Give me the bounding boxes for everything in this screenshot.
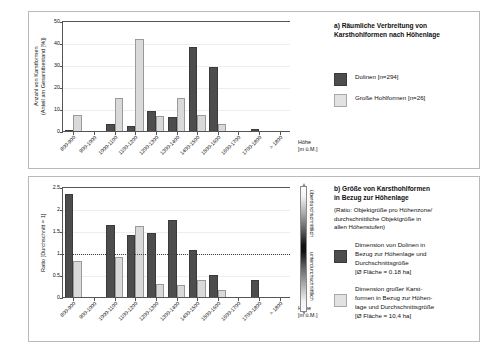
panel-b-title: b) Größe von Karsthohlformen in Bezug zu… <box>334 184 479 203</box>
panel-b-subtitle-line1: (Ratio: Objektgröße pro Höhenzone/ <box>334 206 482 215</box>
legend-label-dolinen-dimension: Dimension von Dolinen in Bezug zur Höhen… <box>355 241 427 277</box>
bar-group <box>187 188 208 298</box>
y-tick-mark <box>60 276 63 277</box>
bar <box>177 98 185 132</box>
legend-swatch-dolinen-dimension-icon <box>334 250 347 263</box>
bar <box>209 275 217 298</box>
legend-label-line2: Bezug zur Höhenlage und <box>355 250 427 257</box>
bar-group <box>125 188 146 298</box>
chart-a-x-axis-title-line1: Höhe <box>298 139 311 145</box>
bar-group <box>207 188 228 298</box>
y-tick-mark <box>60 188 63 189</box>
bar-group <box>104 22 125 132</box>
arrow-down-icon <box>302 311 306 315</box>
legend-label-line2: formen in Bezug zur Höhen- <box>355 294 432 301</box>
bar-group <box>207 22 228 132</box>
panel-b-title-line2: in Bezug zur Höhenlage <box>334 193 479 202</box>
bar <box>189 47 197 132</box>
bar <box>168 117 176 132</box>
panel-b-legend: Dimension von Dolinen in Bezug zur Höhen… <box>334 241 479 329</box>
legend-label-line3: lage und Durchschnittsgröße <box>355 303 434 310</box>
legend-label-line4: [Ø Fläche = 10,4 ha] <box>355 312 411 319</box>
panel-a-title-line1: a) Räumliche Verbreitung von <box>334 21 474 30</box>
chart-b-plot-area: 00.511.522.5 800-900900-10001000-1100110… <box>62 187 290 298</box>
panel-b-subtitle-line3: allen Höhenstufen) <box>334 223 482 232</box>
legend-label-line4: [Ø Fläche = 0.18 ha] <box>355 268 411 275</box>
gradient-label-below-average: unterdurchschnittlich <box>309 252 314 301</box>
panel-b-subtitle: (Ratio: Objektgröße pro Höhenzone/ durch… <box>334 206 482 232</box>
legend-item: Dimension von Dolinen in Bezug zur Höhen… <box>334 241 479 277</box>
bar <box>115 98 123 132</box>
bar <box>127 235 135 298</box>
legend-label-karstformen-dimension: Dimension großer Karst- formen in Bezug … <box>355 285 434 321</box>
bar-group <box>228 22 249 132</box>
chart-b-reference-line <box>63 254 290 255</box>
bar <box>251 280 259 298</box>
bar-group <box>166 22 187 132</box>
bar <box>189 250 197 298</box>
chart-a-bar-groups <box>63 22 290 132</box>
bar-group <box>228 188 249 298</box>
chart-a-y-axis-label-line1: Anzahl von Karstformen <box>33 46 39 106</box>
bar-group <box>269 188 290 298</box>
chart-a-x-axis-title: Höhe [m ü.M.] <box>298 139 317 154</box>
bar-group <box>125 22 146 132</box>
legend-swatch-dolinen-icon <box>334 73 347 86</box>
bar <box>73 261 81 298</box>
bar-group <box>187 22 208 132</box>
bar <box>209 67 217 132</box>
y-tick-mark <box>60 88 63 89</box>
bar-group <box>249 188 270 298</box>
bar <box>156 116 164 132</box>
bar <box>147 111 155 132</box>
y-tick-mark <box>60 110 63 111</box>
y-tick-mark <box>60 22 63 23</box>
bar <box>135 226 143 298</box>
chart-b-axes: 00.511.522.5 800-900900-10001000-1100110… <box>62 187 290 298</box>
bar-group <box>104 188 125 298</box>
y-tick-mark <box>60 44 63 45</box>
y-tick-mark <box>60 254 63 255</box>
legend-label-dolinen: Dolinen [n=294] <box>355 73 399 82</box>
chart-a-y-axis-label: Anzahl von Karstformen (Anteil am Gesamt… <box>33 24 47 128</box>
y-tick-mark <box>60 232 63 233</box>
bar-group <box>63 188 84 298</box>
legend-item: Große Hohlformen [n=26] <box>334 94 474 107</box>
panel-b-subtitle-line2: durchschnittliche Objektgröße in <box>334 215 482 224</box>
bar <box>106 225 114 298</box>
bar <box>197 280 205 298</box>
chart-a-axes: 01020304050 800-900900-10001000-11001100… <box>62 21 290 132</box>
gradient-label-above-average: überdurchschnittlich <box>309 190 314 237</box>
bar <box>197 115 205 132</box>
bar <box>115 257 123 298</box>
bar-group <box>166 188 187 298</box>
y-tick-mark <box>60 210 63 211</box>
legend-swatch-grosse-hohlformen-icon <box>334 94 347 107</box>
bar-group <box>146 188 167 298</box>
chart-a-x-axis-title-line2: [m ü.M.] <box>298 146 317 152</box>
legend-label-line3: Durchschnittsgröße <box>355 259 409 266</box>
chart-b-bar-groups <box>63 188 290 298</box>
legend-item: Dimension großer Karst- formen in Bezug … <box>334 285 479 321</box>
legend-label-grosse-hohlformen: Große Hohlformen [n=26] <box>355 94 425 103</box>
bar <box>65 194 73 298</box>
chart-a-y-axis-label-line2: (Anteil am Gesamtbestand [%]) <box>40 37 46 115</box>
bar <box>168 220 176 298</box>
bar-group <box>269 22 290 132</box>
y-tick-mark <box>60 132 63 133</box>
bar-group <box>146 22 167 132</box>
chart-b-y-axis-label: Ratio [Durchschnitt = 1] <box>40 193 47 293</box>
legend-swatch-karstformen-dimension-icon <box>334 294 347 307</box>
panel-b-title-line1: b) Größe von Karsthohlformen <box>334 184 479 193</box>
legend-item: Dolinen [n=294] <box>334 73 474 86</box>
bar-group <box>63 22 84 132</box>
y-tick-mark <box>60 66 63 67</box>
arrow-up-icon <box>302 183 306 187</box>
bar <box>135 39 143 132</box>
gradient-bar-icon <box>300 186 307 312</box>
panel-a-legend: Dolinen [n=294] Große Hohlformen [n=26] <box>334 73 474 115</box>
bar <box>156 284 164 298</box>
bar <box>73 115 81 132</box>
over-under-average-scale: überdurchschnittlich unterdurchschnittli… <box>296 186 324 312</box>
panel-a-title-line2: Karsthohlformen nach Höhenlage <box>334 30 474 39</box>
